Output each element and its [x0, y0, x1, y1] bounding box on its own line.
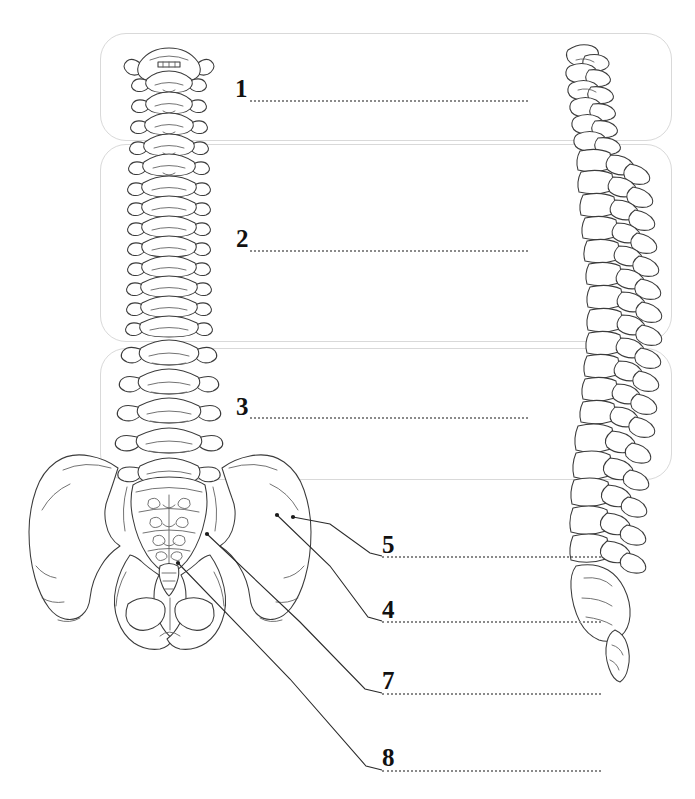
label-number-7: 7 [382, 668, 395, 693]
worksheet-page: 1 2 3 5 4 7 8 [0, 0, 695, 799]
answer-line-1[interactable] [250, 100, 528, 102]
label-number-2: 2 [236, 226, 249, 251]
answer-line-8[interactable] [382, 770, 601, 772]
label-number-4: 4 [382, 597, 395, 622]
answer-line-2[interactable] [250, 250, 528, 252]
answer-line-5[interactable] [382, 556, 601, 558]
answer-line-7[interactable] [382, 693, 601, 695]
label-number-1: 1 [235, 76, 248, 101]
answer-line-3[interactable] [250, 417, 528, 419]
label-number-3: 3 [236, 394, 249, 419]
label-number-5: 5 [382, 532, 395, 557]
answer-line-4[interactable] [382, 621, 601, 623]
label-number-8: 8 [382, 745, 395, 770]
label-numbers-layer: 1 2 3 5 4 7 8 [0, 0, 695, 799]
